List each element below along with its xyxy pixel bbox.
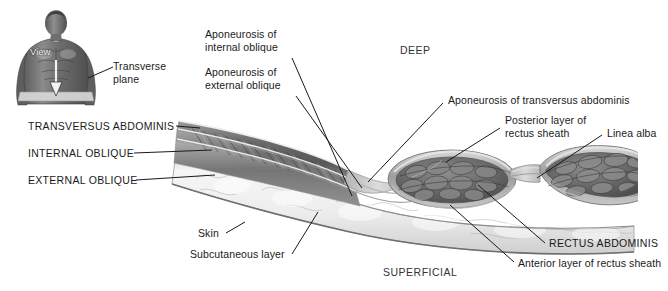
label-transversus-abdominis: TRANSVERSUS ABDOMINIS (28, 120, 174, 133)
label-subcutaneous-layer: Subcutaneous layer (190, 248, 285, 261)
label-rectus-abdominis: RECTUS ABDOMINIS (549, 237, 658, 250)
label-anterior-layer-rectus-sheath: Anterior layer of rectus sheath (518, 257, 661, 270)
label-transverse-plane: Transverse plane (113, 60, 166, 85)
label-aponeurosis-external-oblique: Aponeurosis of external oblique (205, 66, 281, 91)
label-aponeurosis-internal-oblique: Aponeurosis of internal oblique (205, 28, 278, 53)
abdominal-wall-cross-section-figure: View T (0, 0, 668, 291)
label-posterior-layer-rectus-sheath: Posterior layer of rectus sheath (505, 114, 586, 139)
label-external-oblique: EXTERNAL OBLIQUE (28, 174, 137, 187)
label-deep: DEEP (400, 44, 431, 57)
view-label: View (30, 46, 50, 57)
label-aponeurosis-transversus-abdominis: Aponeurosis of transversus abdominis (448, 94, 630, 107)
label-skin: Skin (198, 227, 219, 240)
label-internal-oblique: INTERNAL OBLIQUE (28, 147, 134, 160)
orientation-inset-figure (14, 8, 98, 108)
label-superficial: SUPERFICIAL (383, 266, 457, 279)
label-linea-alba: Linea alba (607, 127, 656, 140)
